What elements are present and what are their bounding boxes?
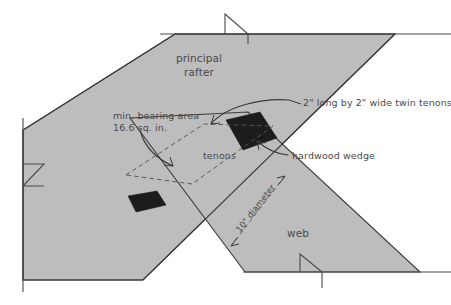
label-principal-rafter-line2: rafter [184,66,214,78]
label-twin-tenons: 2" long by 2" wide twin tenons [303,97,451,108]
label-min-bearing-area-line2: 16.6 sq. in. [113,122,167,133]
joint-drawing-canvas: principal rafter web tenons min. bearing… [0,0,451,305]
label-min-bearing-area-line1: min. bearing area [113,110,199,121]
label-principal-rafter-line1: principal [176,52,222,64]
timber-joint-diagram: principal rafter web tenons min. bearing… [0,0,451,305]
label-hardwood-wedge: hardwood wedge [292,150,375,161]
label-web: web [287,227,309,239]
label-tenons: tenons [203,150,236,161]
